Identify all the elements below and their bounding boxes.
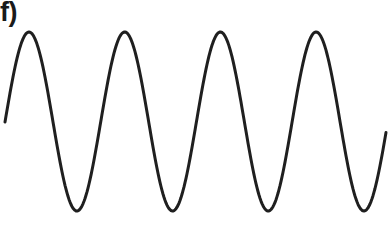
sine-wave [0,0,388,237]
sine-wave-path [5,32,386,211]
